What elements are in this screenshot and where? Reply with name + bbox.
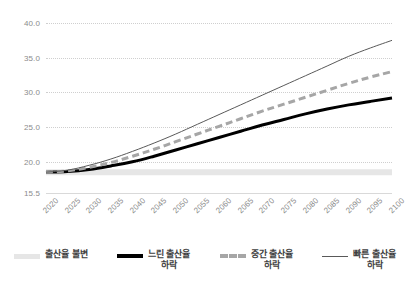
series-line-3 <box>46 72 392 173</box>
legend-label-line1: 중간 출산율 <box>251 249 294 259</box>
line-swatch-flat-icon <box>14 251 40 261</box>
x-tick-label: 2055 <box>193 196 212 215</box>
x-axis-baseline <box>46 193 392 194</box>
y-tick-label: 15.5 <box>24 189 40 198</box>
legend-label-line1: 출산율 불변 <box>45 249 88 259</box>
x-tick-label: 2090 <box>344 196 363 215</box>
line-swatch-slow-icon <box>117 251 143 261</box>
x-tick-label: 2070 <box>257 196 276 215</box>
x-tick-label: 2025 <box>63 196 82 215</box>
x-tick-label: 2040 <box>128 196 147 215</box>
swatch-bar <box>220 254 246 258</box>
swatch-bar <box>322 256 348 257</box>
line-swatch-fast-icon <box>322 251 348 261</box>
x-tick-label: 2050 <box>171 196 190 215</box>
legend-label-line2: 하락 <box>367 260 383 270</box>
x-tick-label: 2035 <box>106 196 125 215</box>
x-tick-label: 2080 <box>301 196 320 215</box>
line-swatch-medium-icon <box>220 251 246 261</box>
x-tick-label: 2060 <box>214 196 233 215</box>
swatch-bar <box>117 254 143 258</box>
legend-item-3[interactable]: 중간 출산율하락 <box>220 249 294 271</box>
y-tick-label: 20.0 <box>24 157 40 166</box>
y-tick-label: 40.0 <box>24 19 40 28</box>
series-container <box>46 23 392 193</box>
legend-label-line1: 빠른 출산율 <box>353 249 396 259</box>
legend-label-line2: 하락 <box>161 260 177 270</box>
x-tick-label: 2095 <box>366 196 385 215</box>
x-tick-label: 2020 <box>41 196 60 215</box>
chart-figure: 40.035.030.025.020.015.5 202020252030203… <box>0 0 407 291</box>
x-tick-label: 2065 <box>236 196 255 215</box>
legend-label-line1: 느린 출산율 <box>148 249 191 259</box>
legend-item-label: 빠른 출산율하락 <box>353 249 396 271</box>
legend-item-label: 느린 출산율하락 <box>148 249 191 271</box>
y-tick-label: 35.0 <box>24 53 40 62</box>
y-tick-label: 30.0 <box>24 88 40 97</box>
legend-item-label: 출산율 불변 <box>45 249 88 260</box>
legend-item-4[interactable]: 빠른 출산율하락 <box>322 249 396 271</box>
legend-item-label: 중간 출산율하락 <box>251 249 294 271</box>
x-tick-label: 2085 <box>322 196 341 215</box>
x-tick-label: 2045 <box>149 196 168 215</box>
plot-area <box>46 23 392 193</box>
legend-label-line2: 하락 <box>264 260 280 270</box>
x-tick-label: 2100 <box>387 196 406 215</box>
x-tick-label: 2075 <box>279 196 298 215</box>
series-line-2 <box>46 98 392 172</box>
swatch-bar <box>14 254 40 259</box>
x-axis: 2020202520302035204020452050205520602065… <box>46 196 392 242</box>
y-tick-label: 25.0 <box>24 123 40 132</box>
chart-legend: 출산율 불변느린 출산율하락중간 출산율하락빠른 출산율하락 <box>14 249 396 289</box>
y-axis: 40.035.030.025.020.015.5 <box>0 0 44 291</box>
legend-item-2[interactable]: 느린 출산율하락 <box>117 249 191 271</box>
legend-item-1[interactable]: 출산율 불변 <box>14 249 88 261</box>
x-tick-label: 2030 <box>84 196 103 215</box>
